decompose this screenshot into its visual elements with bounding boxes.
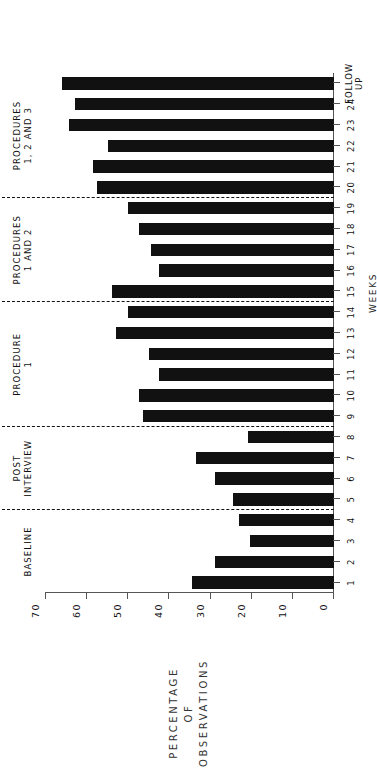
phase-divider <box>2 509 334 510</box>
bar <box>69 119 334 131</box>
bar <box>233 493 334 505</box>
x-axis-title: WEEKS <box>368 273 377 313</box>
bar <box>151 244 334 256</box>
x-axis-tick <box>333 353 340 354</box>
x-axis-tick-label: 16 <box>346 264 356 276</box>
y-axis-tick-label: 60 <box>71 603 82 637</box>
bar <box>139 223 334 235</box>
x-axis-tick-label: 20 <box>346 181 356 193</box>
x-axis-tick <box>333 374 340 375</box>
bar <box>75 98 334 110</box>
x-axis-tick <box>333 394 340 395</box>
bar <box>128 306 334 318</box>
x-axis-tick-label: 11 <box>346 368 356 380</box>
x-axis-tick-label: 19 <box>346 202 356 214</box>
x-axis-tick <box>333 145 340 146</box>
y-axis-tick <box>210 592 211 599</box>
bar <box>128 202 334 214</box>
phase-label: PROCEDURES 1, 2 AND 3 <box>12 101 34 170</box>
x-axis-tick-label: 18 <box>346 223 356 235</box>
phase-label: POST INTERVIEW <box>12 440 34 497</box>
x-axis-tick-label: 21 <box>346 160 356 172</box>
bar <box>196 452 334 464</box>
bar <box>248 431 334 443</box>
x-axis-tick <box>333 457 340 458</box>
x-axis-tick-label: 23 <box>346 119 356 131</box>
x-axis-tick <box>333 582 340 583</box>
x-axis-tick-label: 22 <box>346 140 356 152</box>
x-axis-tick <box>333 228 340 229</box>
y-axis-tick <box>127 592 128 599</box>
x-axis-tick-label: 12 <box>346 348 356 360</box>
bar <box>239 514 334 526</box>
x-axis-tick <box>333 519 340 520</box>
x-axis-tick <box>333 332 340 333</box>
bar <box>159 368 334 380</box>
plot-area: 0102030405060701234567891011121314151617… <box>46 73 334 593</box>
bar <box>112 285 334 297</box>
bar <box>139 389 334 401</box>
x-axis-tick <box>333 478 340 479</box>
bar <box>192 576 334 588</box>
x-axis-tick <box>333 207 340 208</box>
y-axis-tick <box>333 592 334 599</box>
x-axis-tick <box>333 498 340 499</box>
phase-label: PROCEDURE 1 <box>12 333 34 396</box>
x-axis-tick <box>333 103 340 104</box>
x-axis-tick-label: 7 <box>346 455 356 461</box>
y-axis-tick-label: 40 <box>153 603 164 637</box>
x-axis-tick <box>333 124 340 125</box>
x-axis-tick-label: 5 <box>346 496 356 502</box>
bar <box>108 140 334 152</box>
phase-divider <box>2 197 334 198</box>
bar <box>250 535 334 547</box>
bar <box>93 160 334 172</box>
x-axis-tick-label: 13 <box>346 327 356 339</box>
y-axis-tick <box>292 592 293 599</box>
x-axis-tick-label: 9 <box>346 413 356 419</box>
y-axis-tick-label: 70 <box>30 603 41 637</box>
x-axis-tick <box>333 166 340 167</box>
x-axis-tick-label: 6 <box>346 476 356 482</box>
y-axis-tick <box>251 592 252 599</box>
bar <box>116 327 334 339</box>
x-axis-tick <box>333 311 340 312</box>
x-axis-tick <box>333 436 340 437</box>
x-axis-tick <box>333 561 340 562</box>
bar <box>149 348 334 360</box>
phase-divider <box>2 426 334 427</box>
bar <box>143 410 334 422</box>
x-axis-tick <box>333 415 340 416</box>
x-axis-tick-label: 17 <box>346 244 356 256</box>
phase-label: PROCEDURES 1 AND 2 <box>12 215 34 284</box>
x-axis-tick-label: 1 <box>346 580 356 586</box>
value-axis-line <box>46 592 334 593</box>
y-axis-tick-label: 30 <box>194 603 205 637</box>
x-axis-tick <box>333 270 340 271</box>
x-axis-tick-label: 4 <box>346 517 356 523</box>
y-axis-tick-label: 10 <box>276 603 287 637</box>
x-axis-tick <box>333 249 340 250</box>
x-axis-tick <box>333 82 340 83</box>
bar <box>159 264 334 276</box>
y-axis-tick-label: 0 <box>318 603 329 637</box>
x-axis-tick <box>333 290 340 291</box>
x-axis-tick-label: 15 <box>346 285 356 297</box>
x-axis-tick <box>333 186 340 187</box>
y-axis-tick-label: 50 <box>112 603 123 637</box>
x-axis-tick-label: 2 <box>346 559 356 565</box>
bar <box>215 556 334 568</box>
bar <box>215 472 334 484</box>
x-axis-tick <box>333 540 340 541</box>
x-axis-tick-label: 8 <box>346 434 356 440</box>
bar <box>97 181 334 193</box>
x-axis-tick-label: 3 <box>346 538 356 544</box>
x-axis-tick-label: 14 <box>346 306 356 318</box>
y-axis-tick <box>86 592 87 599</box>
y-axis-tick <box>168 592 169 599</box>
x-axis-tick-label: 10 <box>346 389 356 401</box>
x-axis-tick-label: FOLLOW UP <box>345 63 364 104</box>
y-axis-title: PERCENTAGE OF OBSERVATIONS <box>166 638 211 771</box>
